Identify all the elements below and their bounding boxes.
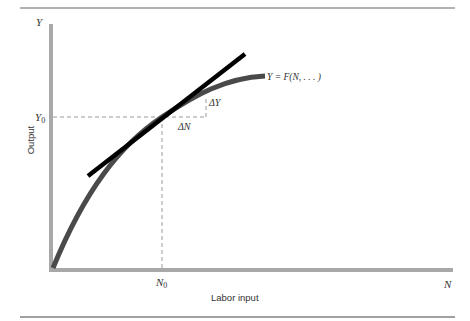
delta-y-label: ΔY (208, 97, 222, 108)
y-axis-title: Output (25, 125, 36, 154)
delta-n-label: ΔN (177, 121, 192, 132)
function-label: Y = F(N, . . . ) (267, 72, 321, 83)
production-function-figure: Y N Y0 N0 Y = F(N, . . . ) ΔY ΔN Output … (0, 0, 470, 321)
tangent-line (88, 54, 245, 176)
production-function-curve (53, 76, 265, 268)
x-axis-symbol: N (443, 278, 452, 290)
y-axis-symbol: Y (36, 16, 44, 28)
x-axis-title: Labor input (211, 292, 259, 303)
diagram-canvas: Y N Y0 N0 Y = F(N, . . . ) ΔY ΔN Output … (0, 0, 470, 321)
n0-label: N0 (155, 276, 167, 290)
y0-label: Y0 (35, 111, 45, 125)
